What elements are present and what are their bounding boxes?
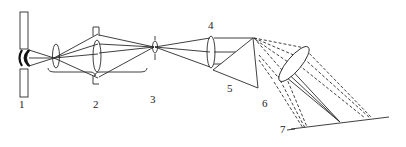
label-7: 7 [280,123,286,135]
label-1: 1 [19,98,25,110]
label-6: 6 [262,97,268,109]
optical-diagram: 1 2 3 4 5 6 7 [0,0,406,147]
label-2: 2 [93,98,99,110]
prism-5 [213,38,258,88]
light-source-1 [20,12,31,97]
label-3: 3 [150,93,156,105]
label-5: 5 [227,82,233,94]
optical-diagram-svg: 1 2 3 4 5 6 7 [0,0,406,147]
label-7-leader [287,129,295,130]
label-4: 4 [208,19,214,31]
bracket-2 [48,68,147,76]
